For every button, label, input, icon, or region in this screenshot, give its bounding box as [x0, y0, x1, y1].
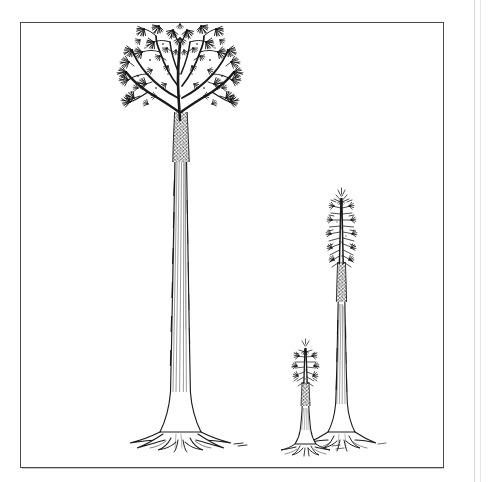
scanned-page: Three fossil lycopsid (Lepidodendron-typ… [0, 0, 489, 482]
figure-alt-text [0, 0, 1, 1]
figure-caption [0, 0, 1, 1]
page-edge-line-outer [474, 0, 475, 482]
figure-frame-border [20, 22, 444, 468]
figure-subject: Three fossil lycopsid (Lepidodendron-typ… [0, 0, 1, 1]
page-edge-line-inner [480, 0, 481, 482]
